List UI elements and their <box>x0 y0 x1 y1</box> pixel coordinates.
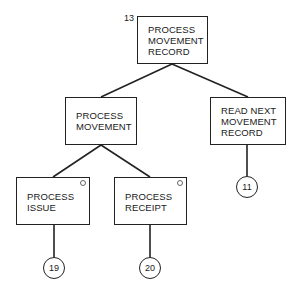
box-label: PROCESS MOVEMENT RECORD <box>148 24 204 57</box>
box-label: READ NEXT MOVEMENT RECORD <box>221 105 277 138</box>
box-process-movement-record: PROCESS MOVEMENT RECORD <box>137 16 208 64</box>
box-label: PROCESS RECEIPT <box>125 191 172 213</box>
selection-mark-icon <box>177 180 183 186</box>
root-number: 13 <box>124 13 134 23</box>
box-process-issue: PROCESS ISSUE <box>16 177 90 225</box>
connector-circle-11: 11 <box>236 176 258 198</box>
box-read-next-movement-record: READ NEXT MOVEMENT RECORD <box>210 97 286 145</box>
connector-number: 11 <box>242 182 251 192</box>
selection-mark-icon <box>80 180 86 186</box>
connector-circle-20: 20 <box>139 257 161 279</box>
connector-number: 20 <box>145 263 155 273</box>
box-process-movement: PROCESS MOVEMENT <box>65 97 137 145</box>
box-label: PROCESS MOVEMENT <box>76 110 132 132</box>
connector-number: 19 <box>49 263 59 273</box>
box-label: PROCESS ISSUE <box>27 191 74 213</box>
box-process-receipt: PROCESS RECEIPT <box>114 177 187 225</box>
connector-circle-19: 19 <box>43 257 65 279</box>
